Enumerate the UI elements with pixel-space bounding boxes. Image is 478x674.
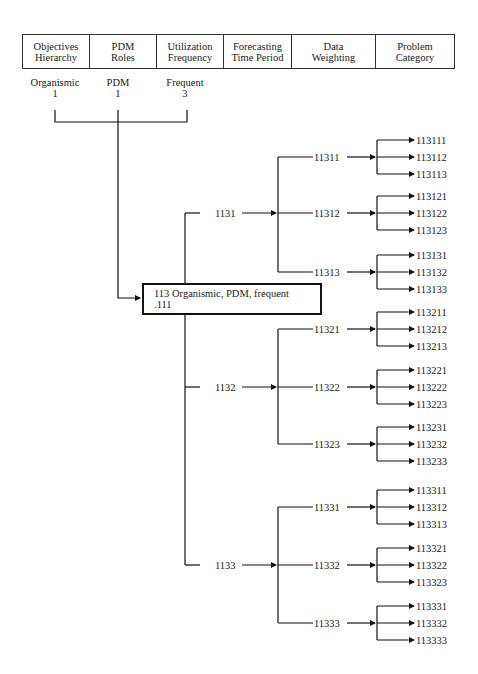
leaf-node-113233: 113233 xyxy=(416,456,447,467)
leaf-node-113312: 113312 xyxy=(416,502,447,513)
level2-node-11332: 11332 xyxy=(314,560,340,571)
root-code: .111 xyxy=(154,299,320,310)
level2-node-11311: 11311 xyxy=(314,152,339,163)
leaf-node-113132: 113132 xyxy=(416,267,447,278)
factor-bracket xyxy=(55,110,187,298)
leaf-node-113332: 113332 xyxy=(416,618,447,629)
level2-node-11313: 11313 xyxy=(314,267,340,278)
leaf-node-113213: 113213 xyxy=(416,341,447,352)
leaf-node-113321: 113321 xyxy=(416,543,447,554)
tree-connectors: 1131113111131111131121131131131211312111… xyxy=(0,0,478,674)
level1-node-1133: 1133 xyxy=(215,560,236,571)
leaf-node-113323: 113323 xyxy=(416,577,447,588)
leaf-node-113212: 113212 xyxy=(416,324,447,335)
leaf-node-113333: 113333 xyxy=(416,635,447,646)
level1-node-1131: 1131 xyxy=(215,208,236,219)
leaf-node-113231: 113231 xyxy=(416,422,447,433)
level2-node-11321: 11321 xyxy=(314,324,340,335)
leaf-node-113222: 113222 xyxy=(416,382,447,393)
leaf-node-113223: 113223 xyxy=(416,399,447,410)
leaf-node-113113: 113113 xyxy=(416,169,447,180)
root-category-box: 113 Organismic, PDM, frequent .111 xyxy=(142,283,322,315)
leaf-node-113311: 113311 xyxy=(416,485,447,496)
leaf-node-113111: 113111 xyxy=(416,135,446,146)
leaf-node-113211: 113211 xyxy=(416,307,447,318)
leaf-node-113112: 113112 xyxy=(416,152,447,163)
level2-node-11333: 11333 xyxy=(314,618,340,629)
level2-node-11322: 11322 xyxy=(314,382,340,393)
level2-node-11323: 11323 xyxy=(314,439,340,450)
leaf-node-113232: 113232 xyxy=(416,439,447,450)
leaf-node-113331: 113331 xyxy=(416,601,447,612)
leaf-node-113123: 113123 xyxy=(416,225,447,236)
leaf-node-113221: 113221 xyxy=(416,365,447,376)
leaf-node-113313: 113313 xyxy=(416,519,447,530)
root-label: 113 Organismic, PDM, frequent xyxy=(154,288,320,299)
leaf-node-113121: 113121 xyxy=(416,191,447,202)
level2-node-11331: 11331 xyxy=(314,502,340,513)
leaf-node-113133: 113133 xyxy=(416,284,447,295)
leaf-node-113131: 113131 xyxy=(416,250,447,261)
leaf-node-113122: 113122 xyxy=(416,208,447,219)
level2-node-11312: 11312 xyxy=(314,208,340,219)
level1-node-1132: 1132 xyxy=(215,382,236,393)
leaf-node-113322: 113322 xyxy=(416,560,447,571)
